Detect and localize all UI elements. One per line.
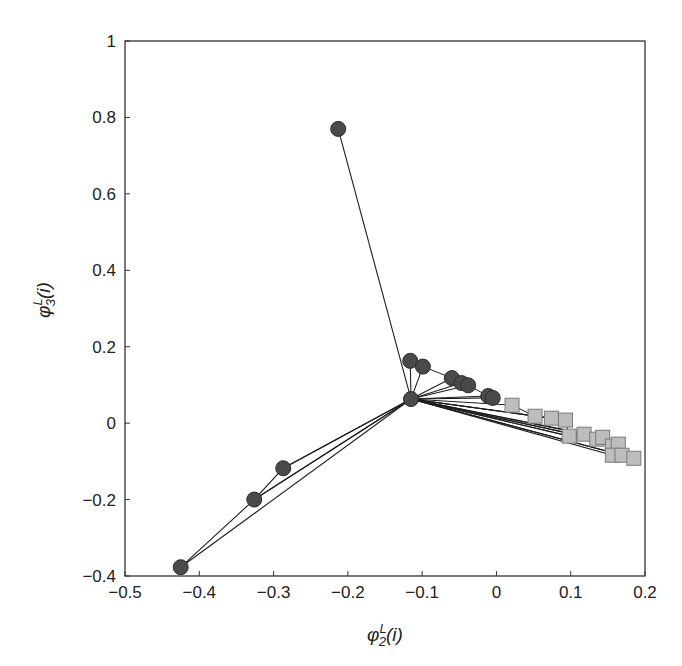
graph-edge bbox=[411, 399, 634, 458]
square-marker bbox=[505, 398, 519, 412]
scatter-chart: −0.5−0.4−0.3−0.2−0.100.10.2 −0.4−0.200.2… bbox=[0, 0, 682, 666]
graph-edge bbox=[181, 399, 411, 567]
x-tick-label: 0.2 bbox=[633, 583, 657, 602]
square-marker bbox=[577, 427, 591, 441]
y-axis-label: φL3(i) bbox=[30, 282, 58, 318]
x-tick-label: −0.2 bbox=[331, 583, 365, 602]
square-marker bbox=[627, 451, 641, 465]
y-tick-label: −0.2 bbox=[82, 491, 116, 510]
circle-marker bbox=[331, 121, 346, 136]
y-tick-label: −0.4 bbox=[82, 567, 116, 586]
x-axis-label: φL2(i) bbox=[367, 621, 403, 649]
y-tick-label: 0.8 bbox=[92, 108, 116, 127]
x-tick-label: −0.4 bbox=[183, 583, 217, 602]
y-tick-label: 0.4 bbox=[92, 261, 116, 280]
circle-marker bbox=[173, 560, 188, 575]
y-tick-label: 0.6 bbox=[92, 185, 116, 204]
x-tick-label: 0 bbox=[492, 583, 501, 602]
plot-frame bbox=[125, 41, 645, 576]
square-marker bbox=[562, 429, 576, 443]
y-tick-label: 0.2 bbox=[92, 338, 116, 357]
x-tick-label: −0.1 bbox=[405, 583, 439, 602]
y-axis-ticks: −0.4−0.200.20.40.60.81 bbox=[82, 32, 130, 586]
circle-marker bbox=[415, 359, 430, 374]
graph-edge bbox=[254, 399, 411, 500]
square-marker bbox=[559, 413, 573, 427]
circle-marker bbox=[276, 461, 291, 476]
circle-marker bbox=[404, 392, 419, 407]
y-tick-label: 0 bbox=[107, 414, 116, 433]
x-tick-label: −0.3 bbox=[257, 583, 291, 602]
x-tick-label: 0.1 bbox=[559, 583, 583, 602]
y-tick-label: 1 bbox=[107, 32, 116, 51]
square-marker bbox=[528, 409, 542, 423]
graph-edge bbox=[181, 500, 255, 568]
circle-marker bbox=[461, 378, 476, 393]
graph-edge bbox=[283, 399, 411, 468]
circle-marker bbox=[247, 492, 262, 507]
square-marker bbox=[544, 411, 558, 425]
data-markers bbox=[173, 121, 641, 574]
circle-marker bbox=[485, 390, 500, 405]
graph-edge bbox=[338, 129, 411, 399]
